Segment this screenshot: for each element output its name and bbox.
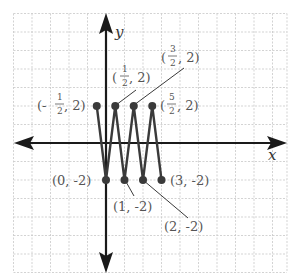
label-0-neg2: (0, -2) xyxy=(52,173,91,188)
svg-text:2: 2 xyxy=(57,106,63,116)
data-point xyxy=(121,176,129,184)
label-1-neg2: (1, -2) xyxy=(113,199,152,214)
coordinate-graph: y x (- 1 2 , 2) ( 1 2 , 2) ( 3 2 , 2) ( … xyxy=(0,0,291,280)
svg-text:, 2): , 2) xyxy=(177,98,199,113)
label-three-halves-2: ( 3 2 , 2) xyxy=(161,44,200,68)
data-point xyxy=(111,102,119,110)
data-point xyxy=(93,102,101,110)
svg-text:1: 1 xyxy=(122,64,128,74)
data-point xyxy=(130,102,138,110)
svg-text:2: 2 xyxy=(170,58,176,68)
svg-text:2: 2 xyxy=(169,106,175,116)
label-2-neg2: (2, -2) xyxy=(164,219,203,234)
x-axis xyxy=(14,136,287,150)
svg-text:(-: (- xyxy=(37,98,46,113)
data-point xyxy=(139,176,147,184)
label-3-neg2: (3, -2) xyxy=(170,173,209,188)
data-point xyxy=(102,176,110,184)
svg-text:2: 2 xyxy=(122,78,128,88)
y-axis-label: y xyxy=(114,23,124,41)
svg-text:, 2): , 2) xyxy=(64,98,86,113)
svg-text:1: 1 xyxy=(57,92,63,102)
data-point xyxy=(158,176,166,184)
svg-text:, 2): , 2) xyxy=(178,50,200,65)
label-half-2: ( 1 2 , 2) xyxy=(112,64,151,88)
svg-text:(: ( xyxy=(160,98,165,113)
svg-text:(: ( xyxy=(112,70,117,85)
svg-text:5: 5 xyxy=(169,92,175,102)
label-five-halves-2: ( 5 2 , 2) xyxy=(160,92,199,116)
data-point xyxy=(148,102,156,110)
svg-text:(: ( xyxy=(161,50,166,65)
x-axis-label: x xyxy=(268,146,277,164)
label-neg-half-2: (- 1 2 , 2) xyxy=(37,92,86,116)
svg-text:3: 3 xyxy=(170,44,176,54)
svg-text:, 2): , 2) xyxy=(129,70,151,85)
